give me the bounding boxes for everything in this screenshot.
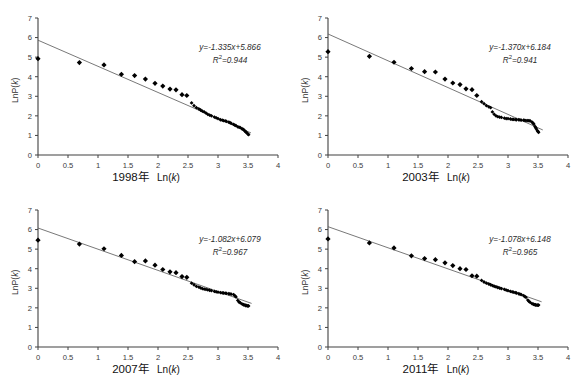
svg-text:5: 5 xyxy=(318,245,322,254)
svg-text:1: 1 xyxy=(318,131,322,140)
annotation-2003: y=-1.370x+6.184 R2=0.941 xyxy=(468,42,572,66)
svg-text:2: 2 xyxy=(28,112,32,121)
xaxis-label-1998: 1998年 Ln(k) xyxy=(16,168,276,184)
plot-area-2003: 0123456700.511.522.533.54 xyxy=(290,0,580,191)
equation-text: y=-1.078x+6.148 xyxy=(468,234,572,245)
svg-text:0: 0 xyxy=(28,343,32,352)
svg-text:4: 4 xyxy=(566,161,570,170)
svg-text:4: 4 xyxy=(318,265,322,274)
svg-text:1: 1 xyxy=(28,323,32,332)
svg-text:4: 4 xyxy=(276,161,280,170)
plot-area-1998: 0123456700.511.522.533.54 xyxy=(0,0,290,191)
r2-text: R2=0.941 xyxy=(468,53,572,66)
panel-2007: 0123456700.511.522.533.54 y=-1.082x+6.07… xyxy=(0,192,290,383)
svg-text:7: 7 xyxy=(28,206,32,215)
svg-text:7: 7 xyxy=(318,14,322,23)
equation-text: y=-1.082x+6.079 xyxy=(178,234,282,245)
svg-text:5: 5 xyxy=(28,53,32,62)
svg-text:7: 7 xyxy=(28,14,32,23)
yaxis-label-2011: LnP(k) xyxy=(300,270,310,295)
svg-text:3: 3 xyxy=(28,284,32,293)
svg-text:1: 1 xyxy=(318,323,322,332)
svg-text:5: 5 xyxy=(28,245,32,254)
plot-area-2011: 0123456700.511.522.533.54 xyxy=(290,192,580,383)
svg-text:3: 3 xyxy=(318,284,322,293)
svg-text:6: 6 xyxy=(318,225,322,234)
svg-text:7: 7 xyxy=(318,206,322,215)
svg-text:4: 4 xyxy=(318,73,322,82)
svg-text:6: 6 xyxy=(318,33,322,42)
plot-area-2007: 0123456700.511.522.533.54 xyxy=(0,192,290,383)
panel-1998: 0123456700.511.522.533.54 y=-1.335x+5.86… xyxy=(0,0,290,191)
svg-text:4: 4 xyxy=(276,353,280,362)
annotation-2011: y=-1.078x+6.148 R2=0.965 xyxy=(468,234,572,258)
panel-2011: 0123456700.511.522.533.54 y=-1.078x+6.14… xyxy=(290,192,580,383)
svg-text:6: 6 xyxy=(28,33,32,42)
data-points xyxy=(35,56,250,136)
r2-text: R2=0.965 xyxy=(468,245,572,258)
r2-text: R2=0.967 xyxy=(178,245,282,258)
svg-text:4: 4 xyxy=(28,73,32,82)
annotation-1998: y=-1.335x+5.866 R2=0.944 xyxy=(178,42,282,66)
annotation-2007: y=-1.082x+6.079 R2=0.967 xyxy=(178,234,282,258)
equation-text: y=-1.370x+6.184 xyxy=(468,42,572,53)
svg-text:2: 2 xyxy=(318,112,322,121)
xaxis-label-2003: 2003年 Ln(k) xyxy=(306,168,566,184)
svg-text:3: 3 xyxy=(28,92,32,101)
svg-text:3: 3 xyxy=(318,92,322,101)
svg-text:0: 0 xyxy=(318,343,322,352)
svg-text:4: 4 xyxy=(28,265,32,274)
yaxis-label-2003: LnP(k) xyxy=(300,78,310,103)
yaxis-label-1998: LnP(k) xyxy=(10,78,20,103)
svg-text:4: 4 xyxy=(566,353,570,362)
svg-text:6: 6 xyxy=(28,225,32,234)
svg-text:1: 1 xyxy=(28,131,32,140)
xaxis-label-2007: 2007年 Ln(k) xyxy=(16,360,276,376)
svg-text:2: 2 xyxy=(28,304,32,313)
xaxis-label-2011: 2011年 Ln(k) xyxy=(306,360,566,376)
r2-text: R2=0.944 xyxy=(178,53,282,66)
svg-text:0: 0 xyxy=(318,151,322,160)
equation-text: y=-1.335x+5.866 xyxy=(178,42,282,53)
svg-text:2: 2 xyxy=(318,304,322,313)
svg-text:5: 5 xyxy=(318,53,322,62)
svg-text:0: 0 xyxy=(28,151,32,160)
panel-2003: 0123456700.511.522.533.54 y=-1.370x+6.18… xyxy=(290,0,580,191)
figure-grid: 0123456700.511.522.533.54 y=-1.335x+5.86… xyxy=(0,0,580,383)
yaxis-label-2007: LnP(k) xyxy=(10,270,20,295)
